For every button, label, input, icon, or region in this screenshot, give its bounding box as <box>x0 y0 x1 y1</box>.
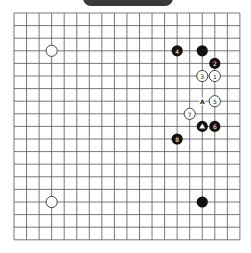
move-number: 1 <box>213 73 217 80</box>
black-stone: 8 <box>172 133 183 144</box>
white-stone <box>46 45 57 56</box>
move-number: 7 <box>188 111 192 118</box>
white-stone: 5 <box>209 96 220 107</box>
go-board[interactable]: 42135768 A <box>0 0 251 253</box>
black-stone <box>197 45 208 56</box>
point-label-mark: A <box>200 98 205 105</box>
black-stone <box>197 196 208 207</box>
white-stone: 1 <box>209 70 220 81</box>
white-stone: 7 <box>184 108 195 119</box>
white-stone <box>46 196 57 207</box>
black-stone: 6 <box>209 121 220 132</box>
black-stone: 4 <box>172 45 183 56</box>
black-stone: 2 <box>209 58 220 69</box>
move-number: 4 <box>175 48 179 55</box>
move-number: 3 <box>200 73 204 80</box>
move-number: 2 <box>213 60 217 67</box>
white-stone: 3 <box>197 70 208 81</box>
move-number: 8 <box>175 136 179 143</box>
black-stone <box>197 121 208 132</box>
marks-layer: A <box>199 98 205 105</box>
move-number: 5 <box>213 98 217 105</box>
move-number: 6 <box>213 123 217 130</box>
